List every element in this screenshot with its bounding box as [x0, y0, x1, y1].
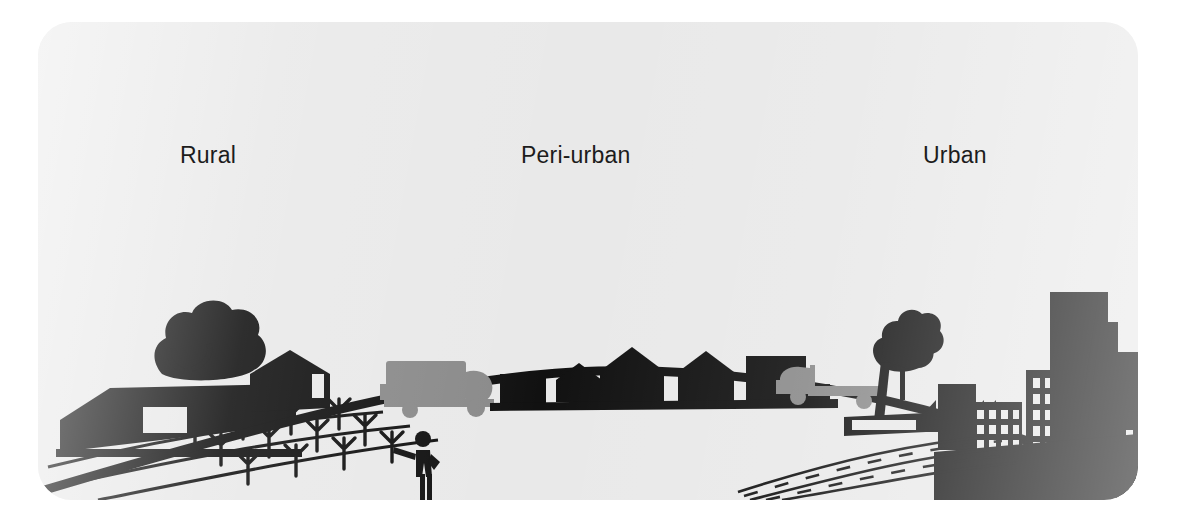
- landscape-scene: [38, 22, 1138, 500]
- house-gable-large: [600, 347, 664, 402]
- periurban-group: [380, 347, 882, 418]
- zone-label-rural: Rural: [180, 142, 236, 169]
- figure-root: Rural Peri-urban Urban: [0, 0, 1178, 521]
- zone-label-urban: Urban: [923, 142, 987, 169]
- large-tree: [154, 301, 265, 381]
- zone-label-periurban: Peri-urban: [521, 142, 630, 169]
- house-gable-medium: [678, 351, 734, 402]
- illustration-panel: Rural Peri-urban Urban: [38, 22, 1138, 500]
- smoke-plume: [882, 310, 944, 369]
- house-flat-roof: [500, 374, 546, 406]
- box-truck: [380, 361, 494, 418]
